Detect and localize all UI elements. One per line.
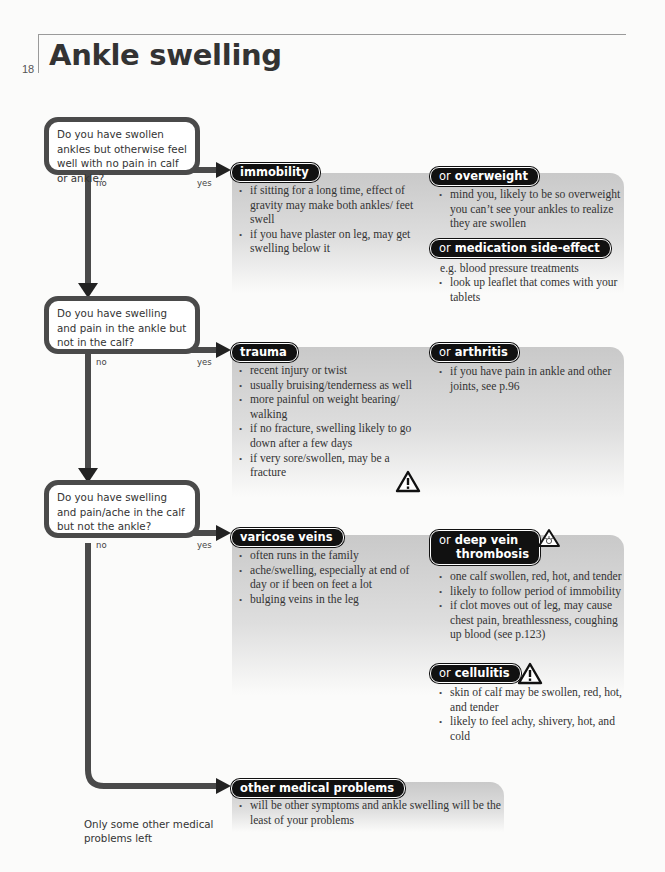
or-prefix: or — [439, 241, 451, 255]
list-item: likely to follow period of immobility — [438, 585, 624, 600]
alt-medication: or medication side-effect — [430, 239, 611, 258]
question-2: Do you have swelling and pain in the ank… — [44, 296, 200, 354]
warning-triangle-icon — [395, 470, 421, 493]
alt-label: arthritis — [455, 345, 508, 359]
list-item: recent injury or twist — [238, 364, 413, 379]
list-item: if no fracture, swelling likely to go do… — [238, 422, 413, 451]
emergency-warning-icon — [537, 528, 561, 548]
question-3: Do you have swelling and pain/ache in th… — [44, 480, 200, 538]
list-item: if clot moves out of leg, may cause ches… — [438, 599, 624, 643]
alt-arthritis: or arthritis — [430, 343, 519, 362]
outcome-immobility: immobility — [231, 163, 320, 182]
medication-list: look up leaflet that comes with your tab… — [438, 276, 624, 305]
list-item: if sitting for a long time, effect of gr… — [238, 184, 428, 228]
alt-label: cellulitis — [455, 666, 510, 680]
or-prefix: or — [439, 345, 451, 359]
outcome-label: other medical problems — [240, 781, 394, 795]
or-prefix: or — [439, 169, 451, 183]
arthritis-list: if you have pain in ankle and other join… — [438, 365, 624, 394]
list-item: mind you, likely to be so overweight you… — [438, 188, 624, 232]
list-item: likely to feel achy, shivery, hot, and c… — [438, 715, 624, 744]
list-item: one calf swollen, red, hot, and tender — [438, 570, 624, 585]
list-item: skin of calf may be swollen, red, hot, a… — [438, 686, 624, 715]
alt-overweight: or overweight — [430, 167, 539, 186]
list-item: if you have plaster on leg, may get swel… — [238, 228, 428, 257]
list-item: more painful on weight bearing/ walking — [238, 393, 413, 422]
list-item: will be other symptoms and ankle swellin… — [238, 799, 508, 828]
cellulitis-list: skin of calf may be swollen, red, hot, a… — [438, 686, 624, 744]
immobility-list: if sitting for a long time, effect of gr… — [238, 184, 428, 257]
varicose-list: often runs in the family ache/swelling, … — [238, 549, 423, 607]
overweight-list: mind you, likely to be so overweight you… — [438, 188, 624, 232]
dvt-list: one calf swollen, red, hot, and tender l… — [438, 570, 624, 643]
list-item: look up leaflet that comes with your tab… — [438, 276, 624, 305]
outcome-label: immobility — [240, 165, 309, 179]
outcome-label: varicose veins — [240, 530, 333, 544]
outcome-trauma: trauma — [231, 343, 298, 362]
alt-deep-vein-thrombosis: or deep vein thrombosis — [430, 530, 540, 565]
list-item: if you have pain in ankle and other join… — [438, 365, 624, 394]
outcome-label: trauma — [240, 345, 287, 359]
alt-label: overweight — [455, 169, 528, 183]
yes-label-1: yes — [197, 178, 212, 188]
no-label-1: no — [96, 178, 107, 188]
trauma-list: recent injury or twist usually bruising/… — [238, 364, 413, 481]
alt-cellulitis: or cellulitis — [430, 664, 521, 683]
list-item: ache/swelling, especially at end of day … — [238, 564, 423, 593]
alt-label: medication side-effect — [455, 241, 600, 255]
outcome-other-medical-problems: other medical problems — [231, 779, 405, 798]
list-item: usually bruising/tenderness as well — [238, 379, 413, 394]
or-prefix: or — [439, 666, 451, 680]
warning-triangle-icon — [517, 662, 543, 685]
list-item: bulging veins in the leg — [238, 593, 423, 608]
outcome-varicose-veins: varicose veins — [231, 528, 344, 547]
no-label-3: no — [96, 540, 107, 550]
other-list: will be other symptoms and ankle swellin… — [238, 799, 508, 828]
or-prefix: or — [439, 533, 451, 547]
final-note: Only some other medical problems left — [84, 818, 214, 845]
list-item: if very sore/swollen, may be a fracture — [238, 452, 413, 481]
question-1: Do you have swollen ankles but otherwise… — [44, 117, 200, 175]
medication-intro: e.g. blood pressure treatments — [440, 262, 579, 277]
yes-label-3: yes — [197, 540, 212, 550]
alt-label-line2: thrombosis — [439, 547, 529, 561]
list-item: often runs in the family — [238, 549, 423, 564]
alt-label-line1: deep vein — [455, 533, 519, 547]
no-label-2: no — [96, 357, 107, 367]
yes-label-2: yes — [197, 357, 212, 367]
